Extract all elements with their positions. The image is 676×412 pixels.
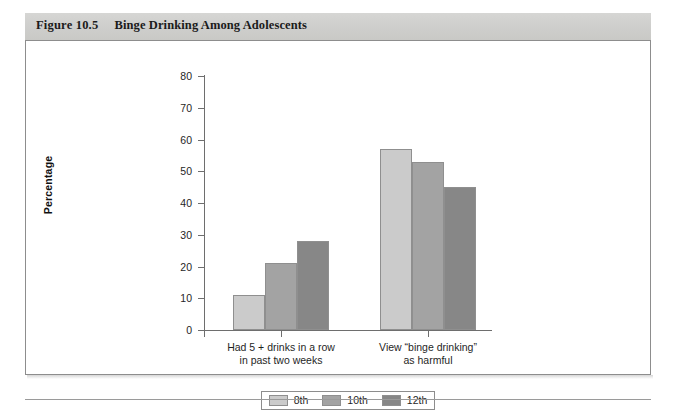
y-axis-tick-value: 40 [152,198,192,209]
y-axis-tick-value: 60 [152,135,192,146]
y-axis-tick [198,267,204,268]
legend-label: 8th [294,395,309,406]
figure-number: Figure 10.5 [36,18,98,32]
bar-10th-group2 [412,162,444,330]
y-axis-title: Percentage [42,125,54,245]
bar-8th-group2 [380,149,412,330]
y-axis-tick [198,76,204,77]
y-axis-tick-label: 80 [146,71,192,82]
y-axis-tick [198,235,204,236]
x-axis-tick [428,331,429,337]
legend-item-12th[interactable]: 12th [382,395,427,406]
x-axis-tick [281,331,282,337]
legend-label: 10th [347,395,367,406]
y-axis-tick-value: 10 [152,293,192,304]
y-axis-tick-label: 40 [146,198,192,209]
bar-12th-group1 [297,241,329,330]
panel-shadow [27,375,653,379]
legend-item-8th[interactable]: 8th [269,395,309,406]
y-axis-tick-label: 20 [146,262,192,273]
figure-caption: Figure 10.5 Binge Drinking Among Adolesc… [36,18,307,33]
x-axis-category-line: as harmful [338,354,518,367]
figure-block: Figure 10.5 Binge Drinking Among Adolesc… [25,13,651,375]
legend-label: 12th [407,395,427,406]
y-axis-tick-value: 20 [152,262,192,273]
x-axis-category-label: View “binge drinking”as harmful [338,341,518,367]
y-axis-tick [198,203,204,204]
y-axis-tick-value: 70 [152,103,192,114]
legend-swatch-icon [269,395,288,406]
y-axis-tick-label: 0 [146,325,192,336]
y-axis-tick-value: 50 [152,166,192,177]
x-axis-category-line: View “binge drinking” [338,341,518,354]
y-axis-tick-value: 0 [152,325,192,336]
legend-item-10th[interactable]: 10th [322,395,367,406]
bar-chart: Percentage 01020304050607080 Had 5 + dri… [26,41,650,374]
y-axis-tick-label: 60 [146,135,192,146]
y-axis-tick [198,108,204,109]
legend-swatch-icon [322,395,341,406]
y-axis-tick-label: 10 [146,293,192,304]
y-axis-tick-label: 50 [146,166,192,177]
figure-panel: Percentage 01020304050607080 Had 5 + dri… [25,40,651,375]
bottom-rule [25,399,651,400]
figure-header-band: Figure 10.5 Binge Drinking Among Adolesc… [25,13,651,40]
bar-12th-group2 [444,187,476,330]
y-axis-tick-label: 30 [146,230,192,241]
y-axis-tick-value: 30 [152,230,192,241]
figure-title: Binge Drinking Among Adolescents [115,18,307,32]
bar-8th-group1 [233,295,265,330]
x-axis-tick-origin [204,331,205,337]
y-axis-tick [198,140,204,141]
y-axis-tick-label: 70 [146,103,192,114]
legend-box: 8th10th12th [261,391,435,410]
y-axis-line [204,75,205,331]
y-axis-tick-value: 80 [152,71,192,82]
y-axis-tick [198,298,204,299]
y-axis-tick [198,171,204,172]
bar-10th-group1 [265,263,297,330]
x-axis-line [204,330,492,331]
legend-swatch-icon [382,395,401,406]
